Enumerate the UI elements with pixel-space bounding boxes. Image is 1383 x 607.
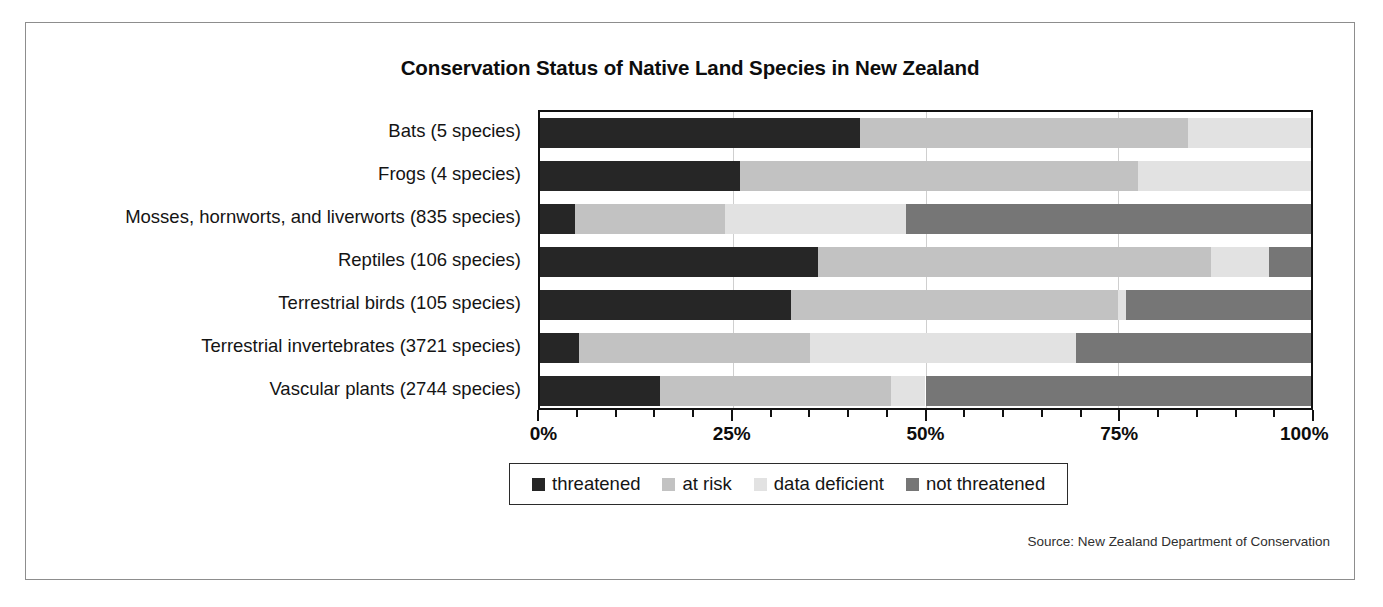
x-tick-minor xyxy=(1080,410,1082,417)
bar-segment-data-deficient xyxy=(725,204,906,234)
x-tick-major xyxy=(537,410,539,421)
bar-row xyxy=(540,247,1311,277)
x-tick-minor xyxy=(963,410,965,417)
bar-segment-at-risk xyxy=(818,247,1211,277)
category-label: Vascular plants (2744 species) xyxy=(269,380,521,399)
bar-segment-threatened xyxy=(540,376,660,406)
category-label: Bats (5 species) xyxy=(388,122,521,141)
x-tick-minor xyxy=(576,410,578,417)
legend-item-not-threatened[interactable]: not threatened xyxy=(906,473,1045,495)
bar-segment-at-risk xyxy=(579,333,810,363)
bar-segment-threatened xyxy=(540,290,791,320)
legend-item-at-risk[interactable]: at risk xyxy=(662,473,731,495)
x-tick-major xyxy=(925,410,927,421)
bar-row xyxy=(540,161,1311,191)
x-tick-minor xyxy=(808,410,810,417)
category-label: Frogs (4 species) xyxy=(378,165,521,184)
legend-label: threatened xyxy=(552,473,640,495)
category-label: Terrestrial invertebrates (3721 species) xyxy=(201,337,521,356)
bar-row xyxy=(540,118,1311,148)
legend-item-data-deficient[interactable]: data deficient xyxy=(754,473,884,495)
x-tick-minor xyxy=(1196,410,1198,417)
x-tick-major xyxy=(731,410,733,421)
category-axis-labels: Bats (5 species)Frogs (4 species)Mosses,… xyxy=(26,110,531,410)
legend-label: data deficient xyxy=(774,473,884,495)
bar-segment-at-risk xyxy=(575,204,725,234)
legend-swatch-icon xyxy=(906,478,919,491)
plot-wrapper xyxy=(538,110,1313,410)
legend-swatch-icon xyxy=(754,478,767,491)
x-tick-label: 50% xyxy=(906,423,944,445)
x-tick-label: 75% xyxy=(1100,423,1138,445)
bar-segment-at-risk xyxy=(860,118,1188,148)
bar-segment-data-deficient xyxy=(1118,290,1126,320)
bar-segment-data-deficient xyxy=(1138,161,1311,191)
bar-segment-at-risk xyxy=(791,290,1119,320)
bar-segment-data-deficient xyxy=(1188,118,1311,148)
bar-segment-data-deficient xyxy=(891,376,926,406)
x-axis: 0%25%50%75%100% xyxy=(538,410,1313,460)
legend-label: at risk xyxy=(682,473,731,495)
bar-row xyxy=(540,333,1311,363)
x-tick-minor xyxy=(615,410,617,417)
x-tick-minor xyxy=(770,410,772,417)
x-tick-minor xyxy=(692,410,694,417)
bar-segment-threatened xyxy=(540,204,575,234)
bar-row xyxy=(540,376,1311,406)
bar-segment-threatened xyxy=(540,161,740,191)
bar-segment-not-threatened xyxy=(926,376,1312,406)
source-note: Source: New Zealand Department of Conser… xyxy=(1028,534,1330,549)
bar-segment-not-threatened xyxy=(1076,333,1311,363)
chart-title: Conservation Status of Native Land Speci… xyxy=(26,56,1354,80)
category-label: Mosses, hornworts, and liverworts (835 s… xyxy=(125,208,521,227)
x-tick-minor xyxy=(1273,410,1275,417)
x-tick-minor xyxy=(847,410,849,417)
bar-segment-threatened xyxy=(540,333,579,363)
x-tick-label: 25% xyxy=(713,423,751,445)
chart-legend: threatenedat riskdata deficientnot threa… xyxy=(509,463,1068,505)
bar-segment-not-threatened xyxy=(906,204,1311,234)
x-tick-major xyxy=(1118,410,1120,421)
category-label: Terrestrial birds (105 species) xyxy=(278,294,521,313)
x-tick-minor xyxy=(1002,410,1004,417)
bar-segment-data-deficient xyxy=(1211,247,1269,277)
bar-segment-at-risk xyxy=(740,161,1137,191)
bar-row xyxy=(540,290,1311,320)
legend-item-threatened[interactable]: threatened xyxy=(532,473,640,495)
legend-swatch-icon xyxy=(532,478,545,491)
x-tick-label: 100% xyxy=(1280,423,1329,445)
bar-segment-data-deficient xyxy=(810,333,1076,363)
bar-segment-not-threatened xyxy=(1269,247,1311,277)
bar-row xyxy=(540,204,1311,234)
x-tick-minor xyxy=(886,410,888,417)
x-tick-minor xyxy=(1041,410,1043,417)
bar-segment-at-risk xyxy=(660,376,891,406)
bar-segment-threatened xyxy=(540,118,860,148)
bar-segment-threatened xyxy=(540,247,818,277)
x-tick-major xyxy=(1312,410,1314,421)
x-tick-minor xyxy=(653,410,655,417)
x-tick-minor xyxy=(1235,410,1237,417)
x-tick-minor xyxy=(1157,410,1159,417)
category-label: Reptiles (106 species) xyxy=(338,251,521,270)
x-tick-label: 0% xyxy=(530,423,557,445)
legend-label: not threatened xyxy=(926,473,1045,495)
bar-segment-not-threatened xyxy=(1126,290,1311,320)
plot-area xyxy=(538,110,1313,410)
legend-swatch-icon xyxy=(662,478,675,491)
figure-panel: Conservation Status of Native Land Speci… xyxy=(25,22,1355,580)
